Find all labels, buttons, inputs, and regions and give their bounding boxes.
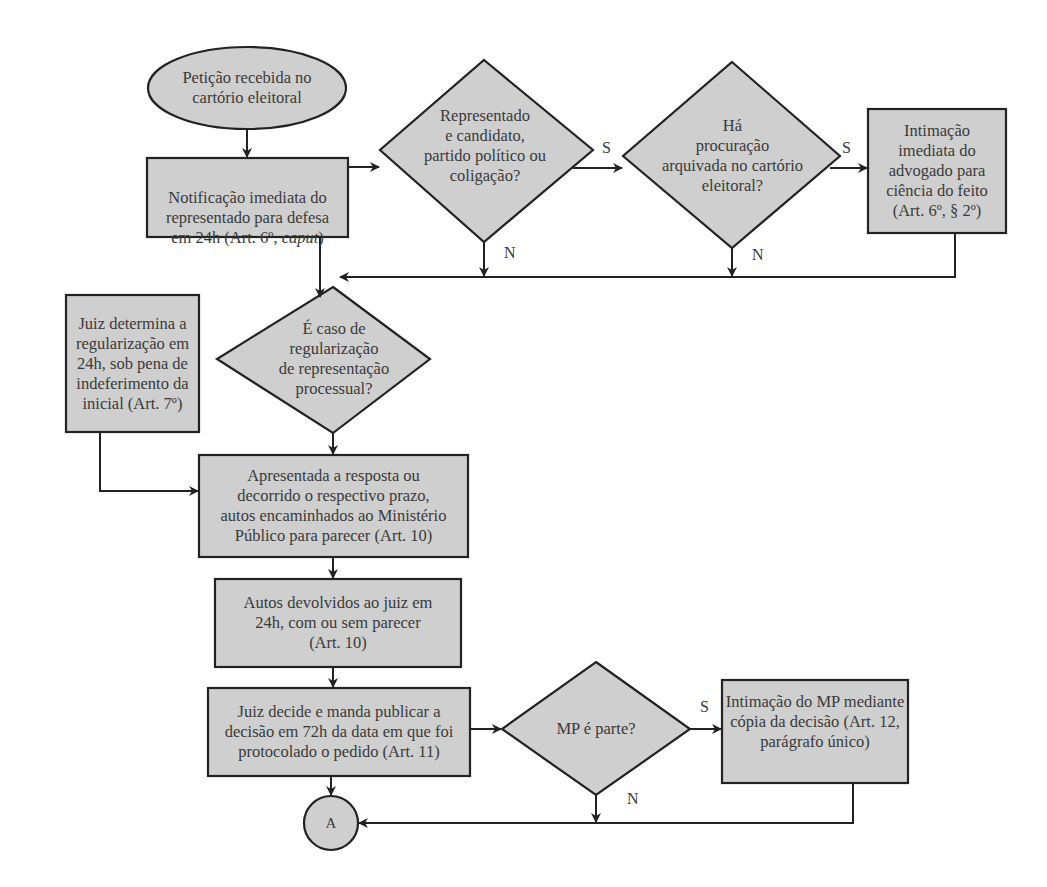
intimacao-advogado-text: Intimação imediata do advogado para ciên… — [870, 111, 1004, 231]
decisao-candidato-text: Representado e candidato, partido políti… — [400, 98, 570, 194]
decisao-mp-text: MP é parte? — [520, 715, 672, 743]
edge-intimacao-advogado-return — [340, 233, 955, 277]
juiz-decide-text: Juiz decide e manda publicar a decisão e… — [210, 690, 468, 774]
start-text: Petição recebida no cartório eleitoral — [150, 58, 344, 118]
juiz-regularizacao-text: Juiz determina a regularização em 24h, s… — [68, 297, 197, 430]
notificacao-text: Notificação imediata do representado par… — [149, 160, 346, 236]
label-mp-yes: S — [700, 698, 709, 716]
decisao-procuracao-text: Há procuração arquivada no cartório elei… — [645, 108, 820, 204]
notificacao-text-end: ) — [318, 228, 324, 247]
decisao-regularizacao-text: É caso de regularização de representação… — [255, 314, 413, 404]
label-mp-no: N — [627, 790, 639, 808]
edge-juiz-regularizacao-ministerio — [100, 432, 198, 491]
autos-devolvidos-text: Autos devolvidos ao juiz em 24h, com ou … — [217, 581, 459, 665]
notificacao-text-italic: caput — [282, 228, 319, 247]
intimacao-mp-text: Intimação do MP mediante cópia da decisã… — [724, 682, 906, 762]
ministerio-publico-text: Apresentada a resposta ou decorrido o re… — [201, 457, 466, 555]
label-candidato-yes: S — [602, 139, 611, 157]
label-procuracao-no: N — [752, 246, 764, 264]
label-procuracao-yes: S — [842, 139, 851, 157]
label-candidato-no: N — [504, 244, 516, 262]
connector-a-text: A — [304, 810, 358, 836]
